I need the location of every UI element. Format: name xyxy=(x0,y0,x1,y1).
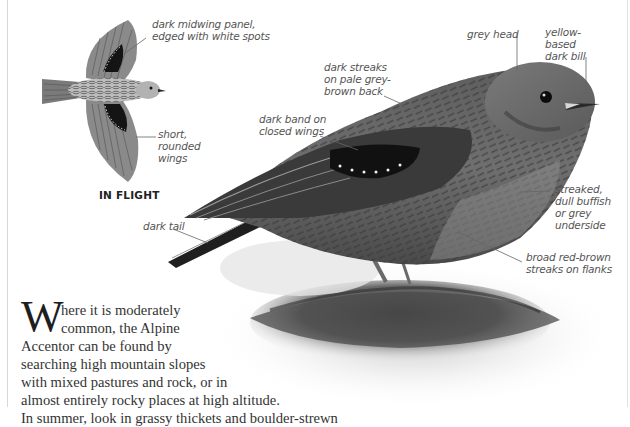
label-underside: streaked, dull buffish or grey underside xyxy=(555,183,611,231)
body-line: searching high mountain slopes xyxy=(21,355,421,373)
flight-caption: IN FLIGHT xyxy=(99,189,160,201)
flight-bird xyxy=(42,20,166,182)
label-grey-head: grey head xyxy=(467,28,518,40)
body-line: In summer, look in grassy thickets and b… xyxy=(21,409,421,427)
label-midwing-panel: dark midwing panel, edged with white spo… xyxy=(152,18,270,42)
label-back-streaks: dark streaks on pale grey- brown back xyxy=(324,61,391,97)
label-wing-band: dark band on closed wings xyxy=(259,113,326,137)
body-line: Accentor can be found by xyxy=(21,337,421,355)
label-bill: yellow- based dark bill xyxy=(545,26,585,62)
body-line: with mixed pastures and rock, or in xyxy=(21,373,421,391)
body-paragraph: here it is moderately common, the Alpine… xyxy=(21,301,421,427)
label-tail: dark tail xyxy=(143,220,184,232)
label-rounded-wings: short, rounded wings xyxy=(158,128,200,164)
label-flank-streaks: broad red-brown streaks on flanks xyxy=(526,251,612,275)
body-line: common, the Alpine xyxy=(21,319,421,337)
body-line: here it is moderately xyxy=(21,301,421,319)
body-line: almost entirely rocky places at high alt… xyxy=(21,391,421,409)
